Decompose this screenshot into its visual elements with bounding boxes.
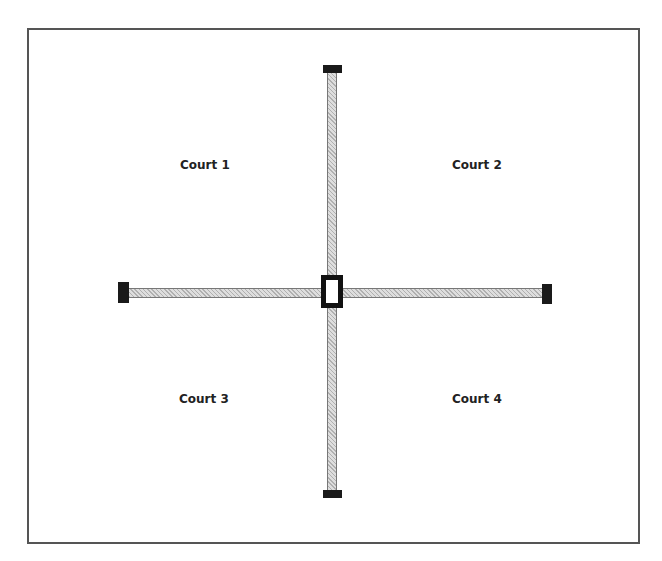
right-end-post: [542, 284, 552, 304]
bottom-end-post: [323, 490, 342, 498]
center-post: [321, 275, 343, 308]
court-2-label: Court 2: [452, 158, 502, 172]
left-end-post: [118, 282, 129, 303]
top-end-post: [323, 65, 342, 73]
court-4-label: Court 4: [452, 392, 502, 406]
court-3-label: Court 3: [179, 392, 229, 406]
court-1-label: Court 1: [180, 158, 230, 172]
